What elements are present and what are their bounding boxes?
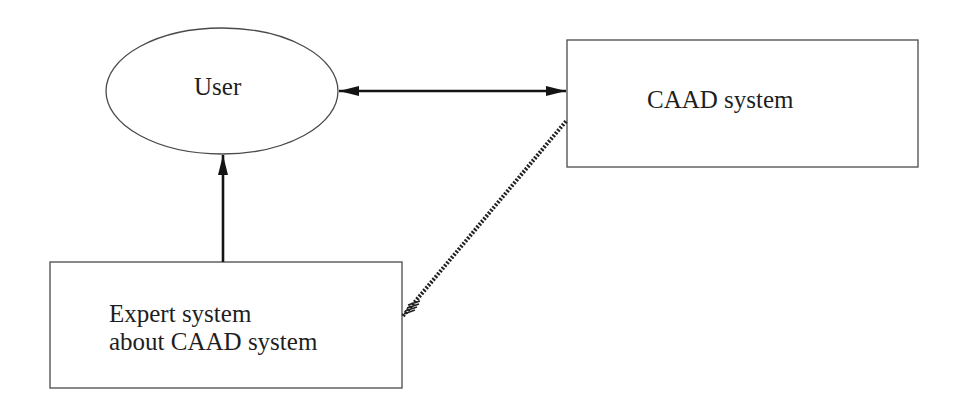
caad-system-label: CAAD system	[647, 85, 794, 114]
expert-caad-hatched-link	[403, 120, 567, 316]
expert-system-label-line1: Expert system	[109, 299, 251, 328]
expert-system-label-line2: about CAAD system	[109, 327, 317, 356]
user-label: User	[194, 72, 241, 101]
